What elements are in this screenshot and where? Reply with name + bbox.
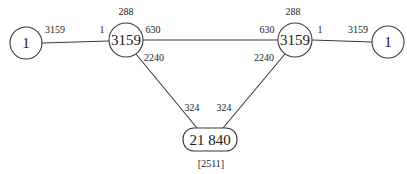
edge-n3-n4-from-label: 1 <box>318 24 323 35</box>
network-diagram: 1 3159 288 3159 288 1 21 840 [2511] 3159… <box>0 0 407 174</box>
edge-n2-n5-to-label: 324 <box>185 102 200 113</box>
edge-n2-n3-from-label: 630 <box>146 24 161 35</box>
edge-n3-n4-to-label: 3159 <box>348 24 368 35</box>
node-n3-top-label: 288 <box>286 6 301 17</box>
edge-n2-n5-from-label: 2240 <box>144 52 164 63</box>
node-n4-label: 1 <box>384 34 392 50</box>
node-n3-label: 3159 <box>280 32 310 48</box>
edge-n1-n2-to-label: 1 <box>100 24 105 35</box>
edge-n3-n4 <box>312 40 372 42</box>
node-n2-label: 3159 <box>111 32 141 48</box>
node-n2-top-label: 288 <box>119 6 134 17</box>
node-n1: 1 <box>10 27 42 59</box>
edge-n3-n5-to-label: 324 <box>217 102 232 113</box>
node-n4: 1 <box>372 26 404 58</box>
node-n5: 21 840 [2511] <box>183 128 237 169</box>
node-n5-label: 21 840 <box>189 132 230 148</box>
edge-n1-n2 <box>42 41 109 43</box>
edge-n2-n3-to-label: 630 <box>260 24 275 35</box>
edge-n2-n5 <box>136 54 197 128</box>
node-n1-label: 1 <box>22 35 30 51</box>
edge-n1-n2-from-label: 3159 <box>45 24 65 35</box>
node-n2: 3159 288 <box>109 6 143 57</box>
node-n5-bottom-label: [2511] <box>198 158 224 169</box>
edge-n3-n5-from-label: 2240 <box>254 52 274 63</box>
edge-n3-n5 <box>223 54 285 128</box>
node-n3: 3159 288 <box>278 6 312 57</box>
